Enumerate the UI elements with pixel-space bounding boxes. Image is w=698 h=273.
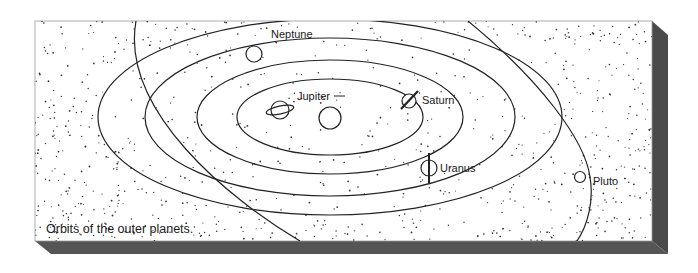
panel-shadow-bottom [35,241,668,254]
outer-planets-orbit-diagram: Jupiter Saturn Uranus Neptune Pluto Orbi… [0,0,698,273]
label-jupiter: Jupiter [297,90,330,102]
planet-neptune [246,46,262,62]
caption: Orbits of the outer planets. [46,222,193,236]
sun [319,107,341,129]
planet-pluto [575,172,586,183]
label-pluto: Pluto [593,175,618,187]
label-uranus: Uranus [440,162,476,174]
label-neptune: Neptune [271,28,313,40]
label-saturn: Saturn [422,94,454,106]
panel-shadow-right [652,21,668,254]
